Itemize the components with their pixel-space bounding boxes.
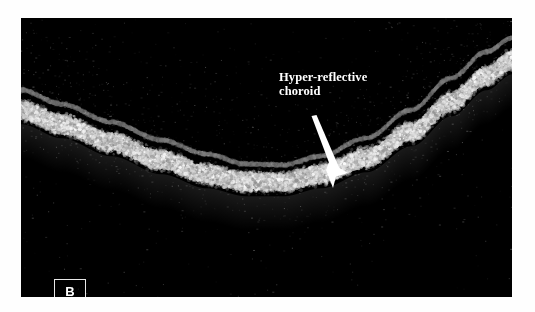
figure-page: Hyper-reflectivechoroid B	[0, 0, 535, 312]
speckle-noise-layer	[21, 18, 512, 297]
panel-label-text: B	[65, 285, 74, 298]
annotation-label: Hyper-reflectivechoroid	[279, 70, 367, 98]
annotation-line-2: choroid	[279, 84, 367, 98]
panel-label-box: B	[54, 279, 86, 297]
oct-scan-panel: Hyper-reflectivechoroid B	[21, 18, 512, 297]
annotation-line-1: Hyper-reflective	[279, 70, 367, 84]
